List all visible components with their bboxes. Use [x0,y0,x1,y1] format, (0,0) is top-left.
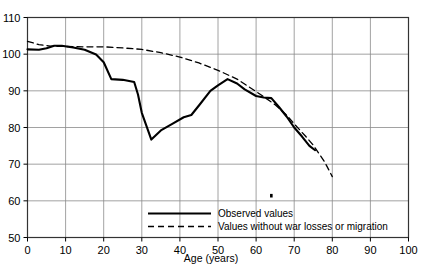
y-tick-label: 50 [8,232,20,244]
y-tick-label: 100 [2,48,20,60]
x-tick-label: 70 [288,244,300,256]
x-tick-label: 30 [136,244,148,256]
x-tick-label: 0 [24,244,30,256]
y-tick-label: 90 [8,85,20,97]
x-tick-label: 60 [250,244,262,256]
y-tick-label: 110 [3,12,21,24]
x-tick-label: 10 [59,244,71,256]
x-tick-label: 20 [98,244,110,256]
legend-label-1: Observed values [218,208,293,219]
y-tick-label: 80 [8,122,20,134]
x-tick-label: 90 [364,244,376,256]
population-age-line-chart: 5060708090100110 0102030405060708090100 … [0,0,423,271]
y-tick-label: 60 [8,195,20,207]
stray-mark [270,194,273,198]
chart-container: 5060708090100110 0102030405060708090100 … [0,0,423,271]
y-tick-label: 70 [8,158,20,170]
annotation-group [270,194,273,198]
legend-label-2: Values without war losses or migration [218,221,388,232]
x-tick-label: 100 [399,244,417,256]
x-axis-title: Age (years) [184,252,238,264]
x-tick-label: 80 [326,244,338,256]
